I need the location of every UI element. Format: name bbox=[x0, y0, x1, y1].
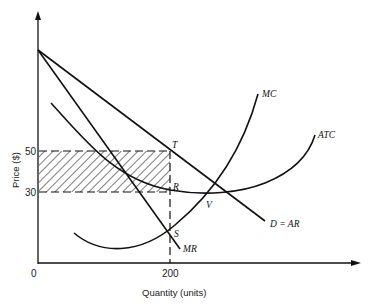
y-tick-50: 50 bbox=[25, 146, 37, 157]
demand-label: D = AR bbox=[269, 219, 300, 229]
y-tick-30: 30 bbox=[25, 187, 37, 198]
y-axis-arrow-icon bbox=[35, 11, 41, 20]
point-s-label: S bbox=[174, 229, 179, 239]
x-axis-title: Quantity (units) bbox=[142, 287, 206, 298]
point-r-label: R bbox=[172, 182, 179, 192]
x-origin-label: 0 bbox=[31, 268, 37, 279]
atc-label: ATC bbox=[317, 130, 336, 140]
mc-label: MC bbox=[261, 89, 277, 99]
point-t-label: T bbox=[172, 140, 178, 150]
y-axis-title: Price ($) bbox=[10, 152, 21, 188]
mr-label: MR bbox=[182, 244, 197, 254]
x-axis-arrow-icon bbox=[351, 260, 361, 266]
mr-curve bbox=[38, 50, 180, 249]
monopoly-diagram: MC ATC D = AR MR T R V S 50 30 0 200 Qua… bbox=[0, 0, 376, 304]
x-tick-200: 200 bbox=[162, 268, 179, 279]
demand-curve bbox=[38, 50, 265, 221]
point-v-label: V bbox=[206, 200, 213, 210]
